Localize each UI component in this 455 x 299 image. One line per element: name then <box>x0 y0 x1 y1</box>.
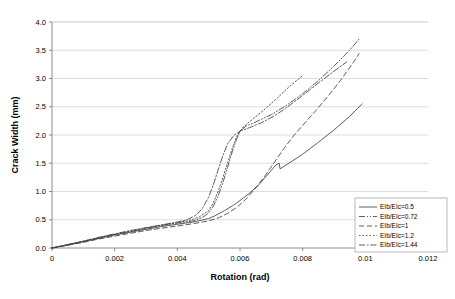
legend-label-3: EIb/EIc=1.2 <box>380 232 414 239</box>
y-tick-label: 2.5 <box>36 102 46 111</box>
x-axis-title: Rotation (rad) <box>211 272 270 282</box>
y-tick-labels: 0.00.51.01.52.02.53.03.54.0 <box>36 18 46 253</box>
x-tick-label: 0.012 <box>419 254 438 263</box>
series-line-0 <box>52 104 362 248</box>
chart-legend: EIb/EIc=0.5EIb/EIc=0.72EIb/EIc=1EIb/EIc=… <box>355 198 447 252</box>
chart-figure: 0.00.51.01.52.02.53.03.54.0 00.0020.0040… <box>0 0 455 299</box>
y-tick-label: 0.0 <box>36 244 46 253</box>
y-tick-label: 4.0 <box>36 18 46 27</box>
series-line-1 <box>52 39 359 248</box>
x-tick-label: 0 <box>50 254 54 263</box>
y-tick-label: 3.5 <box>36 46 46 55</box>
legend-label-4: EIb/EIc=1.44 <box>380 241 418 248</box>
y-tick-label: 1.0 <box>36 187 46 196</box>
y-tick-label: 2.0 <box>36 131 46 140</box>
legend-label-2: EIb/EIc=1 <box>380 222 409 229</box>
y-axis-title: Crack Width (mm) <box>10 97 20 174</box>
gridlines <box>52 22 428 220</box>
data-series <box>52 39 362 248</box>
series-line-2 <box>52 54 359 248</box>
x-tick-label: 0.006 <box>231 254 250 263</box>
x-tick-label: 0.004 <box>168 254 187 263</box>
y-tick-label: 0.5 <box>36 215 46 224</box>
series-line-4 <box>52 62 347 248</box>
legend-label-1: EIb/EIc=0.72 <box>380 213 418 220</box>
x-tick-label: 0.002 <box>105 254 124 263</box>
y-tick-label: 1.5 <box>36 159 46 168</box>
line-chart: 0.00.51.01.52.02.53.03.54.0 00.0020.0040… <box>0 0 455 299</box>
x-tick-labels: 00.0020.0040.0060.0080.010.012 <box>50 254 437 263</box>
x-tick-label: 0.01 <box>358 254 373 263</box>
legend-label-0: EIb/EIc=0.5 <box>380 203 414 210</box>
y-tick-label: 3.0 <box>36 74 46 83</box>
x-tick-label: 0.008 <box>293 254 312 263</box>
